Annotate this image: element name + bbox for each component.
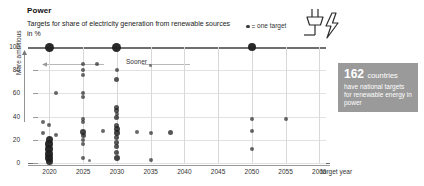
chart-root: Power Targets for share of electricity g… xyxy=(0,0,424,186)
data-point xyxy=(135,130,139,134)
plug-icon xyxy=(301,4,343,46)
plot-area: More ambitious Sooner 020406080100202020… xyxy=(36,47,326,163)
data-point xyxy=(114,77,119,82)
x-axis-label: target year xyxy=(321,168,352,175)
x-axis-tick-label: 2025 xyxy=(68,168,98,175)
up-arrow-icon xyxy=(21,50,28,122)
data-point xyxy=(81,95,85,99)
data-point xyxy=(81,133,86,138)
page-title: Power xyxy=(27,6,52,15)
x-axis-tick-label: 2050 xyxy=(237,168,267,175)
gridline-horizontal xyxy=(36,70,326,71)
y-axis-tick-mark xyxy=(33,140,38,141)
data-point xyxy=(81,120,85,124)
y-axis-tick-mark xyxy=(33,163,38,164)
gridline-vertical xyxy=(218,47,219,163)
data-point xyxy=(112,43,121,52)
gridline-horizontal xyxy=(36,93,326,94)
legend: = one target xyxy=(246,22,286,30)
data-point xyxy=(101,129,105,133)
data-point xyxy=(81,73,85,77)
x-axis-tick-label: 2020 xyxy=(35,168,65,175)
data-point xyxy=(47,123,51,127)
data-point xyxy=(41,120,45,124)
gridline-vertical xyxy=(319,47,320,163)
y-axis-tick-mark xyxy=(33,117,38,118)
top-axis-line xyxy=(28,47,326,49)
legend-equals: = xyxy=(252,23,256,30)
data-point xyxy=(81,142,85,146)
data-point xyxy=(81,156,85,160)
callout-number: 162 xyxy=(344,67,364,81)
y-axis-tick-mark xyxy=(33,70,38,71)
data-point xyxy=(41,131,45,135)
gridline-horizontal xyxy=(36,117,326,118)
gridline-vertical xyxy=(252,47,253,163)
gridline-vertical xyxy=(184,47,185,163)
data-point xyxy=(250,117,254,121)
data-point xyxy=(81,68,85,72)
data-point xyxy=(284,117,288,121)
callout-box: 162 countries have national targets for … xyxy=(338,63,418,112)
callout-number-row: 162 countries xyxy=(344,68,412,82)
callout-text: have national targets for renewable ener… xyxy=(344,83,412,107)
gridline-vertical xyxy=(286,47,287,163)
data-point xyxy=(114,150,119,155)
chart-subtitle: Targets for share of electricity generat… xyxy=(27,19,237,38)
y-axis-tick-mark xyxy=(33,93,38,94)
y-axis-tick-label: 100 xyxy=(0,43,20,50)
legend-label: one target xyxy=(257,22,286,29)
x-axis-line-shadow xyxy=(28,165,330,166)
y-axis-tick-label: 20 xyxy=(0,136,20,143)
x-axis-tick-label: 2040 xyxy=(169,168,199,175)
data-point xyxy=(248,43,256,51)
x-axis-tick-label: 2035 xyxy=(136,168,166,175)
data-point xyxy=(250,129,254,133)
data-point xyxy=(114,144,119,149)
data-point xyxy=(114,155,120,161)
data-point xyxy=(45,43,54,52)
y-axis-tick-label: 0 xyxy=(0,159,20,166)
data-point xyxy=(115,68,119,72)
data-point xyxy=(88,159,91,162)
data-point xyxy=(250,147,254,151)
data-point xyxy=(149,64,152,67)
data-point xyxy=(81,138,85,142)
callout-unit: countries xyxy=(367,71,397,80)
data-point xyxy=(114,115,119,120)
data-point xyxy=(149,131,153,135)
y-axis-tick-label: 40 xyxy=(0,113,20,120)
x-axis-tick-label: 2045 xyxy=(203,168,233,175)
x-axis-tick-label: 2055 xyxy=(271,168,301,175)
data-point xyxy=(168,130,173,135)
lightning-bolt-icon xyxy=(326,13,338,38)
y-axis-tick-label: 60 xyxy=(0,89,20,96)
y-axis-tick-label: 80 xyxy=(0,66,20,73)
x-axis-tick-label: 2030 xyxy=(102,168,132,175)
data-point xyxy=(54,133,58,137)
gridline-horizontal xyxy=(36,163,326,164)
data-point xyxy=(54,91,58,95)
dot-icon xyxy=(246,25,250,29)
data-point xyxy=(149,158,153,162)
gridline-horizontal xyxy=(36,140,326,141)
